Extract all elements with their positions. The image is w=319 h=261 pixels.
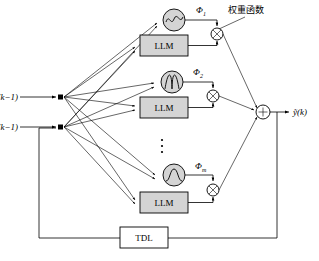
wire-llm1-to-mult1 — [188, 41, 217, 46]
llm-block-1-label: LLM — [155, 41, 174, 51]
wire-phi2-to-mult2 — [183, 82, 213, 88]
junction-node-x — [58, 95, 63, 100]
phi-subscript-m: m — [202, 167, 207, 173]
phi-subscript-2: 2 — [200, 73, 203, 79]
ellipsis-dot-3 — [161, 151, 163, 153]
tdl-block-label: TDL — [135, 233, 153, 243]
ellipsis-dot-1 — [161, 139, 163, 141]
link-x-to-llm1 — [64, 47, 135, 97]
link-x-to-act1 — [64, 23, 157, 97]
llm-block-m-label: LLM — [155, 198, 174, 208]
wire-multm-to-sum — [219, 117, 257, 190]
link-yhat-to-llm3 — [64, 127, 135, 204]
link-yhat-to-llm1 — [64, 51, 135, 127]
link-x-to-act2 — [64, 83, 154, 97]
wire-llmm-to-multm — [188, 197, 213, 203]
activation-circle-m — [163, 164, 185, 186]
input-label-x: x(k−1) — [0, 92, 18, 102]
link-yhat-to-act3 — [64, 127, 155, 179]
ellipsis-dot-2 — [161, 145, 163, 147]
junction-node-yhat — [58, 125, 63, 130]
wire-mult1-to-sum — [223, 34, 257, 108]
input-label-yhat: ŷ(k−1) — [0, 122, 18, 132]
wire-phi1-to-mult1 — [185, 20, 217, 26]
wire-mult2-to-sum — [219, 96, 254, 110]
output-label: ỹ(k) — [292, 107, 307, 117]
phi-subscript-1: 1 — [203, 11, 206, 17]
diagram-root: x(k−1) ŷ(k−1) Φ 1 LLM — [0, 0, 319, 261]
weight-function-label: 权重函数 — [228, 4, 264, 15]
wire-phim-to-multm — [185, 175, 213, 181]
phi-label-m: Φ — [195, 161, 202, 171]
link-x-to-llm2 — [64, 97, 135, 106]
block-diagram-canvas: x(k−1) ŷ(k−1) Φ 1 LLM — [0, 0, 319, 261]
wire-llm2-to-mult2 — [188, 103, 213, 108]
weight-function-leader-line — [219, 17, 245, 29]
phi-label-1: Φ — [196, 5, 203, 15]
llm-block-2-label: LLM — [155, 103, 174, 113]
phi-label-2: Φ — [193, 67, 200, 77]
